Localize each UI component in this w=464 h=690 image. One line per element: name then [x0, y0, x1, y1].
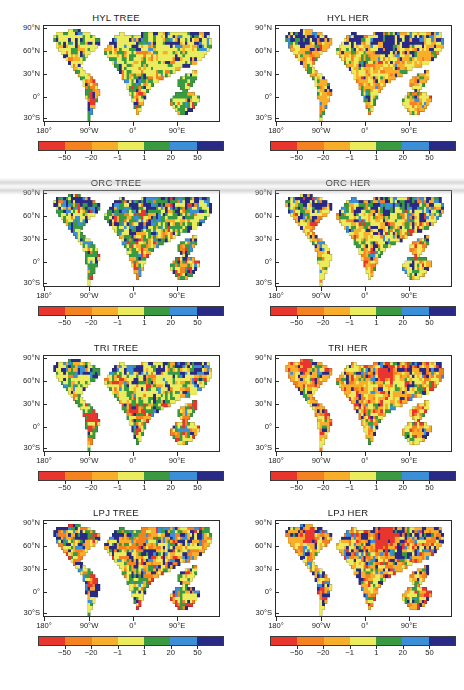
x-axis-tick-label: 180° — [256, 291, 296, 300]
y-axis-tick-label: 60°N — [232, 376, 272, 385]
colorbar-segment-1 — [65, 307, 91, 315]
x-axis-tick-label: 180° — [24, 456, 64, 465]
colorbar-tick-label: −20 — [308, 318, 338, 327]
x-axis-tick-label: 0° — [113, 456, 153, 465]
y-axis-tick-label: 30°N — [232, 564, 272, 573]
x-axis-tick-label: 90°E — [389, 621, 429, 630]
x-axis-tick-label: 90°W — [301, 126, 341, 135]
colorbar-tick-label: −1 — [103, 648, 133, 657]
y-axis-tick-mark — [43, 404, 47, 405]
colorbar-tick-label: −1 — [335, 153, 365, 162]
y-axis-tick-label: 0° — [0, 257, 40, 266]
colorbar-tick-label: 50 — [414, 318, 444, 327]
colorbar-tick-label: −1 — [335, 483, 365, 492]
colorbar-segment-1 — [297, 472, 323, 480]
colorbar-tick-label: −50 — [50, 483, 80, 492]
y-axis-tick-label: 60°N — [0, 46, 40, 55]
colorbar-tick-label: 1 — [361, 318, 391, 327]
colorbar-tick-label: −50 — [282, 648, 312, 657]
colorbar-segment-1 — [65, 472, 91, 480]
x-axis-tick-label: 90°E — [157, 456, 197, 465]
y-axis-tick-mark — [275, 569, 279, 570]
colorbar — [270, 141, 456, 151]
y-axis-tick-label: 30°N — [0, 564, 40, 573]
y-axis-tick-label: 60°N — [232, 211, 272, 220]
map-raster — [276, 521, 451, 616]
y-axis-tick-label: 60°N — [0, 376, 40, 385]
x-axis-tick-label: 90°E — [157, 621, 197, 630]
y-axis-tick-mark — [43, 216, 47, 217]
colorbar-segment-4 — [144, 142, 170, 150]
colorbar-segment-2 — [324, 472, 350, 480]
y-axis-tick-mark — [43, 74, 47, 75]
colorbar-segment-6 — [429, 637, 455, 645]
map-raster — [276, 26, 451, 121]
y-axis-tick-mark — [43, 448, 47, 449]
y-axis-tick-label: 30°N — [232, 234, 272, 243]
map-panel-orc-her: ORC HER90°N60°N30°N0°30°S180°90°W0°90°E−… — [232, 175, 464, 347]
colorbar-segment-5 — [402, 307, 428, 315]
y-axis-tick-mark — [275, 613, 279, 614]
colorbar-segment-0 — [39, 637, 65, 645]
x-axis-tick-label: 90°E — [157, 291, 197, 300]
colorbar-tick-label: 50 — [182, 483, 212, 492]
x-axis-tick-label: 90°E — [389, 456, 429, 465]
colorbar-segment-1 — [65, 637, 91, 645]
y-axis-tick-label: 30°S — [0, 278, 40, 287]
y-axis-tick-label: 30°N — [0, 399, 40, 408]
y-axis-tick-label: 0° — [232, 587, 272, 596]
map-panel-lpj-her: LPJ HER90°N60°N30°N0°30°S180°90°W0°90°E−… — [232, 505, 464, 677]
colorbar-tick-label: −50 — [50, 318, 80, 327]
colorbar-segment-4 — [376, 307, 402, 315]
x-axis-tick-label: 90°E — [157, 126, 197, 135]
colorbar-tick-label: 50 — [182, 648, 212, 657]
colorbar-segment-6 — [197, 142, 223, 150]
colorbar — [270, 306, 456, 316]
map-panel-hyl-her: HYL HER90°N60°N30°N0°30°S180°90°W0°90°E−… — [232, 10, 464, 182]
y-axis-tick-mark — [43, 118, 47, 119]
y-axis-tick-label: 0° — [232, 422, 272, 431]
y-axis-tick-label: 90°N — [232, 353, 272, 362]
x-axis-tick-label: 0° — [345, 621, 385, 630]
colorbar-tick-label: −1 — [335, 318, 365, 327]
y-axis-tick-mark — [275, 118, 279, 119]
colorbar-segment-5 — [170, 472, 196, 480]
colorbar-tick-label: −20 — [76, 153, 106, 162]
colorbar-tick-label: 1 — [361, 483, 391, 492]
panel-title: TRI HER — [232, 342, 464, 353]
y-axis-tick-mark — [275, 28, 279, 29]
colorbar-tick-label: −20 — [76, 648, 106, 657]
y-axis-tick-label: 0° — [232, 92, 272, 101]
colorbar-tick-label: −20 — [308, 153, 338, 162]
colorbar-segment-6 — [197, 472, 223, 480]
colorbar-segment-1 — [65, 142, 91, 150]
y-axis-tick-mark — [43, 97, 47, 98]
panel-title: HYL TREE — [0, 12, 232, 23]
y-axis-tick-mark — [43, 427, 47, 428]
x-axis-tick-label: 180° — [256, 126, 296, 135]
colorbar-segment-6 — [429, 307, 455, 315]
colorbar-tick-label: −20 — [76, 483, 106, 492]
y-axis-tick-label: 90°N — [0, 23, 40, 32]
colorbar-tick-label: 1 — [129, 153, 159, 162]
x-axis-tick-label: 180° — [256, 621, 296, 630]
y-axis-tick-label: 30°S — [232, 278, 272, 287]
y-axis-tick-mark — [43, 523, 47, 524]
map-panel-hyl-tree: HYL TREE90°N60°N30°N0°30°S180°90°W0°90°E… — [0, 10, 232, 182]
map-panel-orc-tree: ORC TREE90°N60°N30°N0°30°S180°90°W0°90°E… — [0, 175, 232, 347]
y-axis-tick-mark — [43, 51, 47, 52]
x-axis-tick-label: 180° — [24, 291, 64, 300]
panel-title: ORC HER — [232, 177, 464, 188]
x-axis-tick-label: 90°E — [389, 126, 429, 135]
y-axis-tick-label: 0° — [0, 587, 40, 596]
colorbar-segment-2 — [92, 637, 118, 645]
colorbar-tick-label: −20 — [308, 483, 338, 492]
colorbar-segment-2 — [324, 307, 350, 315]
y-axis-tick-mark — [275, 358, 279, 359]
colorbar-tick-label: 20 — [388, 648, 418, 657]
colorbar-segment-0 — [271, 142, 297, 150]
y-axis-tick-label: 30°S — [0, 608, 40, 617]
colorbar-segment-1 — [297, 637, 323, 645]
colorbar-tick-label: 20 — [388, 153, 418, 162]
map-plot-area — [43, 520, 220, 617]
